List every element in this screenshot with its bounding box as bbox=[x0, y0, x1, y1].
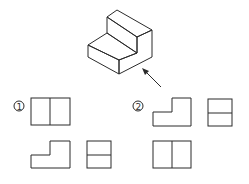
option-1-number: 1 bbox=[17, 102, 23, 112]
view-direction-arrow bbox=[142, 68, 161, 87]
step-front-face bbox=[88, 45, 119, 74]
option-1: 1 bbox=[14, 98, 111, 168]
option-1-side-view bbox=[87, 141, 111, 168]
option-2: 2 bbox=[133, 98, 232, 168]
option-2-number: 2 bbox=[136, 102, 142, 112]
riser-face bbox=[107, 17, 137, 53]
option-2-side-view bbox=[208, 99, 232, 126]
option-1-front-view bbox=[31, 98, 70, 125]
option-2-top-view bbox=[153, 141, 191, 168]
option-1-top-view bbox=[31, 141, 70, 168]
diagram-canvas: 1 2 bbox=[0, 0, 249, 184]
option-2-front-view bbox=[153, 98, 191, 126]
isometric-block bbox=[88, 10, 152, 74]
